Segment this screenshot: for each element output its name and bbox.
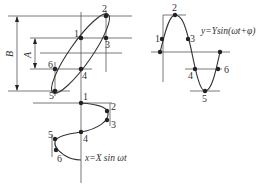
- right-sine-point-1: [160, 37, 164, 41]
- ellipse-point-1: [79, 36, 84, 41]
- bottom-sine-point-3: [105, 118, 109, 122]
- dimension-A-label: A: [22, 51, 33, 59]
- right-label-5: 5: [202, 93, 207, 104]
- right-label-3: 3: [190, 33, 195, 44]
- right-sine-point-4: [193, 67, 197, 71]
- right-sine-start-point: [158, 50, 162, 54]
- ellipse-point-2: [104, 14, 109, 19]
- bottom-label-6: 6: [57, 153, 62, 164]
- right-label-4: 4: [188, 70, 193, 81]
- ellipse-label-3: 3: [105, 39, 110, 50]
- vertical-sine-panel: 1 2 3 4 5 6 y=Ysin(ωt+φ): [151, 2, 255, 104]
- bottom-sine-point-6: [54, 148, 58, 152]
- right-label-2: 2: [172, 2, 177, 13]
- horizontal-equation: x=X sin ωt: [84, 153, 127, 163]
- ellipse-label-2: 2: [102, 3, 107, 14]
- right-label-6: 6: [224, 64, 229, 75]
- ellipse-point-6: [53, 67, 58, 72]
- vertical-equation: y=Ysin(ωt+φ): [200, 26, 255, 37]
- right-sine-point-6: [216, 67, 220, 71]
- right-label-1: 1: [155, 33, 160, 44]
- ellipse-label-5: 5: [49, 90, 54, 101]
- ellipse-label-1: 1: [74, 28, 79, 39]
- right-sine-point-2: [173, 13, 177, 17]
- lissajous-diagram: B A 1 2 3 4 5 6: [0, 0, 273, 185]
- bottom-label-5: 5: [48, 129, 53, 140]
- bottom-sine-point-2: [105, 109, 109, 113]
- dimension-B-label: B: [4, 51, 15, 57]
- horizontal-sine-panel: 1 2 3 4 5 6 x=X sin ωt: [33, 91, 127, 164]
- bottom-sine-point-5: [53, 137, 57, 141]
- bottom-label-1: 1: [83, 91, 88, 102]
- dimension-A: A: [22, 38, 37, 69]
- bottom-label-4: 4: [83, 133, 88, 144]
- ellipse-label-6: 6: [48, 59, 53, 70]
- bottom-label-2: 2: [111, 101, 116, 112]
- bottom-label-3: 3: [111, 119, 116, 130]
- right-sine-end-point: [218, 50, 222, 54]
- dimension-B: B: [4, 16, 19, 91]
- ellipse-label-4: 4: [82, 70, 87, 81]
